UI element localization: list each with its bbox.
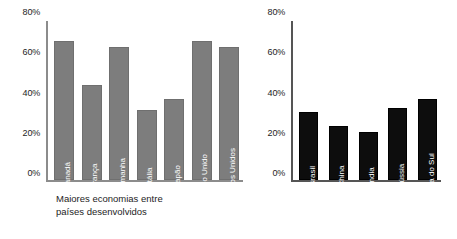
bar: Brasil [299, 112, 318, 180]
y-tick-label: 0% [272, 169, 285, 178]
y-tick-label: 80% [23, 8, 40, 17]
bar-group-emerging: BrasilChinaÍndiaRússiaÁfrica do Sul [293, 21, 441, 180]
bar: Índia [359, 132, 378, 180]
bar: Rússia [388, 108, 407, 180]
y-tick-label: 40% [268, 88, 285, 97]
chart-panel-emerging: 0%20%40%60%80% BrasilChinaÍndiaRússiaÁfr… [250, 0, 457, 239]
bar: Japão [164, 99, 184, 180]
chart-panel-developed: 0%20%40%60%80% CanadáFrançaAlemanhaItáli… [0, 0, 250, 239]
y-tick-label: 40% [23, 88, 40, 97]
y-tick-label: 60% [23, 48, 40, 57]
bar-group-developed: CanadáFrançaAlemanhaItáliaJapãoReino Uni… [48, 21, 243, 180]
y-tick-label: 0% [27, 169, 40, 178]
y-tick-label: 80% [268, 8, 285, 17]
dual-bar-chart-figure: 0%20%40%60%80% CanadáFrançaAlemanhaItáli… [0, 0, 457, 239]
bar: China [329, 126, 348, 180]
plot-area-developed: 0%20%40%60%80% CanadáFrançaAlemanhaItáli… [46, 21, 243, 182]
bar: Itália [137, 110, 157, 180]
bar: África do Sul [418, 99, 437, 180]
y-tick-label: 20% [23, 128, 40, 137]
bar: Reino Unido [192, 41, 212, 180]
bar: França [82, 85, 102, 180]
plot-area-emerging: 0%20%40%60%80% BrasilChinaÍndiaRússiaÁfr… [291, 21, 441, 182]
y-tick-label: 60% [268, 48, 285, 57]
bar: Alemanha [109, 47, 129, 180]
bar: Canadá [54, 41, 74, 180]
y-tick-label: 20% [268, 128, 285, 137]
bar: Estados Unidos [219, 47, 239, 180]
caption-developed: Maiores economias entre países desenvolv… [56, 193, 163, 219]
